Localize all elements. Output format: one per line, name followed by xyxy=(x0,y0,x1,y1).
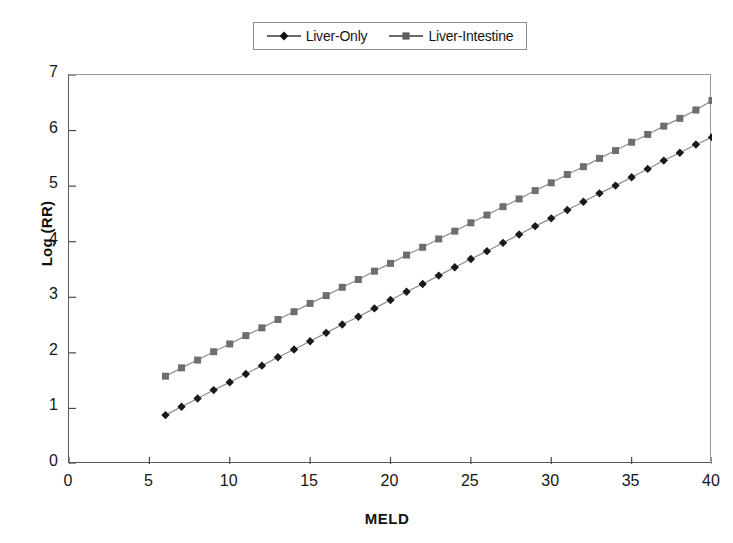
plot-canvas xyxy=(69,75,712,464)
legend-label-liver-intestine: Liver-Intestine xyxy=(428,28,513,44)
x-tick-label: 5 xyxy=(128,472,168,490)
x-tick-label: 20 xyxy=(370,472,410,490)
x-axis-title: MELD xyxy=(317,510,457,527)
x-tick-label: 10 xyxy=(209,472,249,490)
diamond-marker-icon xyxy=(267,30,301,42)
legend-item-liver-intestine[interactable]: Liver-Intestine xyxy=(389,28,513,44)
plot-area xyxy=(68,74,711,463)
x-tick-label: 30 xyxy=(530,472,570,490)
x-tick-label: 40 xyxy=(691,472,731,490)
y-axis-ticks xyxy=(69,75,76,464)
legend-label-liver-only: Liver-Only xyxy=(306,28,368,44)
y-tick-label: 2 xyxy=(24,341,58,359)
legend-item-liver-only[interactable]: Liver-Only xyxy=(267,28,368,44)
y-axis-title: Log (RR) xyxy=(38,179,55,289)
x-axis-ticks xyxy=(69,457,712,464)
x-tick-label: 15 xyxy=(289,472,329,490)
chart-figure: Liver-Only Liver-Intestine 01234567 0510… xyxy=(0,0,733,543)
y-tick-label: 6 xyxy=(24,119,58,137)
x-tick-label: 0 xyxy=(48,472,88,490)
chart-legend: Liver-Only Liver-Intestine xyxy=(253,22,527,50)
y-tick-label: 0 xyxy=(24,452,58,470)
square-marker-icon xyxy=(389,30,423,42)
y-tick-label: 7 xyxy=(24,63,58,81)
y-tick-label: 1 xyxy=(24,396,58,414)
x-tick-label: 25 xyxy=(450,472,490,490)
data-series-group xyxy=(161,97,712,419)
x-tick-label: 35 xyxy=(611,472,651,490)
